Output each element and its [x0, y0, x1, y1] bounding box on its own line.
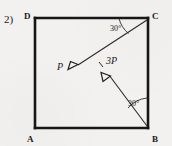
- corner-label-c: C: [152, 11, 159, 21]
- angle-arc-bottom: 30°: [128, 98, 147, 108]
- force-p-arrowhead: [68, 62, 78, 70]
- angle-arc-top: 30°: [110, 19, 129, 34]
- force-vector-p: P: [56, 20, 147, 72]
- force-3p-label: 3P: [105, 55, 117, 66]
- force-3p-arrowhead: [101, 73, 111, 82]
- angle-label-bottom: 30°: [128, 99, 139, 108]
- geometry-figure: 2) D C B A P 30° 3P 30°: [0, 0, 172, 146]
- problem-number: 2): [4, 13, 14, 26]
- force-vector-3p: 3P: [99, 55, 147, 126]
- corner-label-a: A: [27, 134, 34, 144]
- square-abcd: [35, 18, 148, 128]
- angle-label-top: 30°: [110, 24, 121, 33]
- corner-label-d: D: [24, 11, 31, 21]
- force-3p-tick: [99, 62, 103, 67]
- force-p-label: P: [56, 61, 63, 72]
- corner-label-b: B: [152, 134, 158, 144]
